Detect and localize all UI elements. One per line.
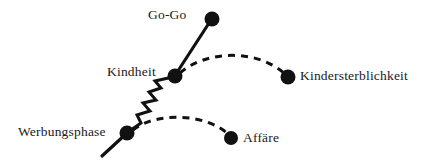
diagram-canvas: Go-Go Kindheit Kindersterblichkeit Werbu… bbox=[0, 0, 426, 163]
edge-kindheit-go-go bbox=[174, 20, 211, 77]
node-go-go[interactable] bbox=[205, 12, 220, 27]
edge-kindheit-kindersterblichkeit bbox=[180, 55, 284, 73]
node-label-kindheit: Kindheit bbox=[107, 65, 156, 79]
node-kindheit[interactable] bbox=[168, 69, 183, 84]
node-label-affaere: Affäre bbox=[243, 131, 279, 145]
edge-werbungsphase-kindheit-spring bbox=[128, 77, 173, 132]
node-label-werbungsphase: Werbungsphase bbox=[18, 125, 106, 139]
node-kindersterblichkeit[interactable] bbox=[281, 70, 296, 85]
node-label-go-go: Go-Go bbox=[148, 8, 187, 22]
edge-werbungsphase-affaere bbox=[133, 117, 228, 134]
node-affaere[interactable] bbox=[224, 131, 238, 145]
node-label-kindersterblichkeit: Kindersterblichkeit bbox=[300, 69, 408, 83]
node-werbungsphase[interactable] bbox=[120, 126, 135, 141]
